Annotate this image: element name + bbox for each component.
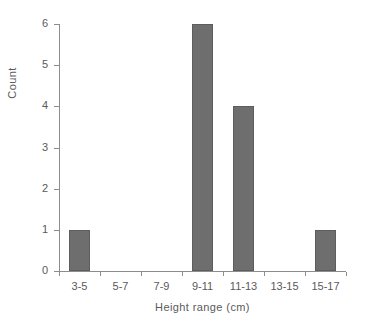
x-axis-title: Height range (cm) — [59, 301, 346, 313]
bar-chart: Count 0123456 3-55-77-99-1111-1313-1515-… — [0, 0, 369, 327]
x-axis-tick — [223, 272, 224, 276]
x-axis-tick — [59, 272, 60, 276]
y-axis-tick-label: 2 — [18, 183, 48, 194]
x-axis-tick — [100, 272, 101, 276]
bar — [192, 24, 213, 271]
x-axis-tick — [264, 272, 265, 276]
plot-area — [59, 24, 346, 271]
y-axis-tick-label: 1 — [18, 224, 48, 235]
bar — [315, 230, 336, 271]
x-axis-tick — [305, 272, 306, 276]
x-axis-tick — [182, 272, 183, 276]
y-axis-tick-label: 0 — [18, 265, 48, 276]
x-axis-tick — [141, 272, 142, 276]
x-axis-tick-label: 15-17 — [298, 280, 354, 293]
y-axis-tick-label: 4 — [18, 100, 48, 111]
x-axis-tick — [346, 272, 347, 276]
bar — [69, 230, 90, 271]
bar — [233, 106, 254, 271]
y-axis-tick-label: 6 — [18, 18, 48, 29]
y-axis-tick-label: 5 — [18, 59, 48, 70]
x-axis-line — [59, 271, 346, 272]
y-axis-title: Count — [6, 38, 24, 128]
y-axis-tick-label: 3 — [18, 142, 48, 153]
